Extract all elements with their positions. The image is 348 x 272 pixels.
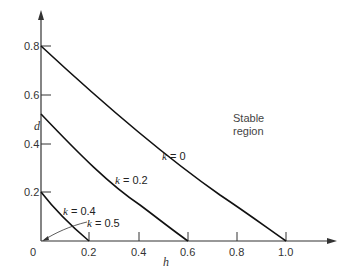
origin-label: 0 <box>30 246 36 258</box>
x-ticks <box>89 232 286 241</box>
label-k-0: k = 0 <box>162 150 186 162</box>
k05-arrow-icon <box>42 236 49 241</box>
label-k-0.5: k = 0.5 <box>87 217 120 229</box>
stable-region-label-2: region <box>233 125 264 137</box>
x-tick-label: 0.6 <box>180 246 195 258</box>
x-axis-arrow-icon <box>327 238 337 244</box>
y-tick-label: 0.8 <box>24 40 39 52</box>
y-tick-label: 0.4 <box>24 138 39 150</box>
x-tick-label: 0.8 <box>229 246 244 258</box>
stable-region-label-1: Stable <box>233 112 264 124</box>
x-tick-label: 0.2 <box>81 246 96 258</box>
label-k-0.4: k = 0.4 <box>63 205 96 217</box>
k05-pointer <box>44 222 87 240</box>
x-tick-label: 0.4 <box>131 246 146 258</box>
y-axis-arrow-icon <box>38 10 44 20</box>
label-k-0.2: k = 0.2 <box>115 174 148 186</box>
y-tick-label: 0.6 <box>24 89 39 101</box>
stability-chart: 0.2 0.4 0.6 0.8 0 0.2 0.4 0.6 0.8 1.0 d … <box>0 0 348 272</box>
x-axis-label: h <box>163 255 169 269</box>
y-axis-label: d <box>34 119 41 133</box>
x-tick-label: 1.0 <box>278 246 293 258</box>
y-tick-label: 0.2 <box>24 186 39 198</box>
